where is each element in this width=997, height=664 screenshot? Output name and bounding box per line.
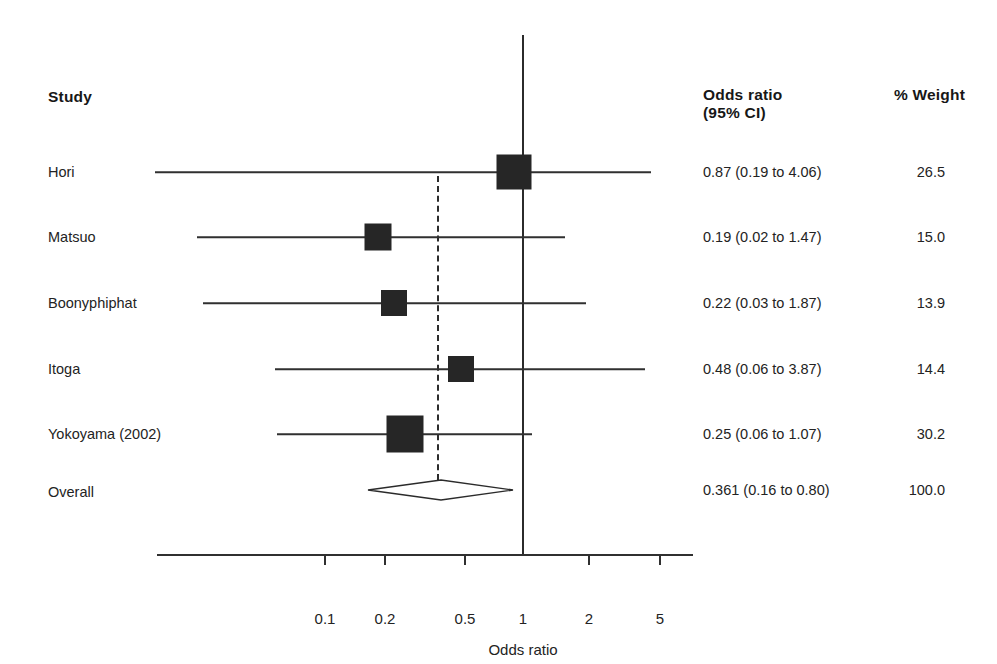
study-label: Yokoyama (2002) xyxy=(48,426,161,442)
weight-value: 15.0 xyxy=(875,229,945,245)
axis-tick xyxy=(659,556,661,565)
axis-tick-label: 0.1 xyxy=(315,610,336,627)
plot-area xyxy=(0,0,997,664)
study-label: Boonyphiphat xyxy=(48,295,137,311)
x-axis-title: Odds ratio xyxy=(488,641,557,658)
study-label: Itoga xyxy=(48,361,80,377)
study-effect-marker xyxy=(448,356,474,382)
null-effect-line xyxy=(522,35,524,555)
weight-value-overall: 100.0 xyxy=(875,482,945,498)
axis-tick-label: 1 xyxy=(519,610,527,627)
axis-tick-label: 0.5 xyxy=(455,610,476,627)
study-effect-marker xyxy=(387,416,424,453)
weight-value: 30.2 xyxy=(875,426,945,442)
forest-plot-figure: Study Odds ratio (95% CI) % Weight xyxy=(0,0,997,664)
axis-tick xyxy=(464,556,466,565)
odds-ratio-value: 0.22 (0.03 to 1.87) xyxy=(703,295,822,311)
odds-ratio-value-overall: 0.361 (0.16 to 0.80) xyxy=(703,482,830,498)
axis-tick-label: 5 xyxy=(656,610,664,627)
odds-ratio-value: 0.19 (0.02 to 1.47) xyxy=(703,229,822,245)
axis-tick xyxy=(384,556,386,565)
axis-tick-label: 0.2 xyxy=(375,610,396,627)
study-label: Matsuo xyxy=(48,229,96,245)
x-axis-line xyxy=(157,554,693,556)
odds-ratio-value: 0.25 (0.06 to 1.07) xyxy=(703,426,822,442)
study-effect-marker xyxy=(365,224,392,251)
overall-effect-diamond xyxy=(367,478,515,502)
weight-value: 13.9 xyxy=(875,295,945,311)
axis-tick xyxy=(588,556,590,565)
weight-value: 26.5 xyxy=(875,164,945,180)
odds-ratio-value: 0.87 (0.19 to 4.06) xyxy=(703,164,822,180)
pooled-estimate-reference-line xyxy=(437,176,439,490)
weight-value: 14.4 xyxy=(875,361,945,377)
confidence-interval-line xyxy=(155,171,651,173)
diamond-shape xyxy=(367,478,515,502)
axis-tick-label: 2 xyxy=(585,610,593,627)
axis-tick xyxy=(324,556,326,565)
study-label-overall: Overall xyxy=(48,484,94,500)
study-label: Hori xyxy=(48,164,75,180)
study-effect-marker xyxy=(381,290,407,316)
odds-ratio-value: 0.48 (0.06 to 3.87) xyxy=(703,361,822,377)
study-effect-marker xyxy=(497,155,532,190)
